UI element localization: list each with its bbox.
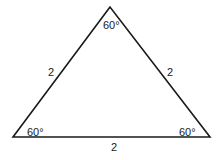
side-label-right: 2: [167, 67, 173, 78]
angle-label-bottom-left: 60°: [27, 127, 44, 138]
side-label-left: 2: [48, 67, 54, 78]
angle-label-bottom-right: 60°: [179, 127, 196, 138]
side-label-bottom: 2: [111, 142, 117, 153]
triangle-diagram: 60° 60° 60° 2 2 2: [0, 0, 218, 160]
angle-label-top: 60°: [103, 20, 120, 31]
